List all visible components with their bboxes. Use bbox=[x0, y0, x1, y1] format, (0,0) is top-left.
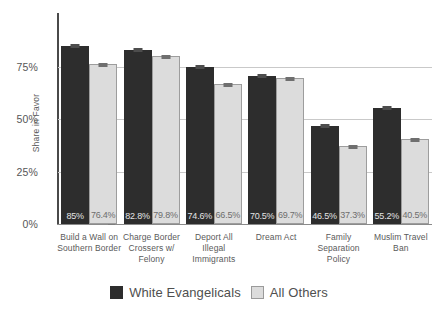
y-tick-label: 0% bbox=[22, 218, 38, 230]
bar-group: 55.2%40.5% bbox=[373, 14, 429, 224]
x-label-line: Policy bbox=[327, 254, 350, 264]
light-square-swatch bbox=[251, 286, 264, 299]
bar-value-label: 46.5% bbox=[312, 211, 337, 221]
bar-value-label: 85% bbox=[66, 211, 83, 221]
legend-item[interactable]: All Others bbox=[251, 285, 328, 300]
bar-group: 85%76.4% bbox=[61, 14, 117, 224]
legend-label: White Evangelicals bbox=[129, 285, 241, 300]
bar[interactable]: 55.2% bbox=[373, 108, 401, 224]
bar-value-label: 66.5% bbox=[216, 210, 241, 220]
bar-group: 82.8%79.8% bbox=[124, 14, 180, 224]
error-bar-cap bbox=[133, 48, 142, 52]
bar[interactable]: 85% bbox=[61, 46, 89, 225]
x-label-line: Dream Act bbox=[256, 232, 297, 242]
bar-chart: Share in Favor 0%25%50%75% 85%76.4%82.8%… bbox=[0, 0, 438, 310]
bar[interactable]: 46.5% bbox=[311, 126, 339, 224]
bar-value-label: 37.3% bbox=[340, 210, 365, 220]
bar[interactable]: 82.8% bbox=[124, 50, 152, 224]
error-bar-cap bbox=[99, 63, 108, 67]
bar[interactable]: 40.5% bbox=[401, 139, 429, 224]
error-bar-cap bbox=[286, 77, 295, 81]
bar[interactable]: 76.4% bbox=[89, 64, 117, 224]
error-bar-cap bbox=[71, 44, 80, 48]
error-bar-cap bbox=[195, 65, 204, 69]
bar-value-label: 40.5% bbox=[403, 210, 428, 220]
bar[interactable]: 70.5% bbox=[248, 76, 276, 224]
bar[interactable]: 69.7% bbox=[276, 78, 304, 224]
bar-value-label: 55.2% bbox=[375, 211, 400, 221]
y-tick-mark bbox=[108, 224, 115, 225]
bar-groups: 85%76.4%82.8%79.8%74.6%66.5%70.5%69.7%46… bbox=[58, 14, 432, 224]
x-label-line: Immigrants bbox=[192, 254, 235, 264]
plot-area: Share in Favor 0%25%50%75% 85%76.4%82.8%… bbox=[58, 14, 432, 224]
x-label-line: Deport All bbox=[195, 232, 233, 242]
x-label-line: Separation bbox=[317, 243, 359, 253]
x-label-line: Muslim Travel bbox=[374, 232, 428, 242]
x-label-line: Ban bbox=[393, 243, 408, 253]
y-tick-label: 75% bbox=[16, 61, 38, 73]
error-bar-cap bbox=[348, 145, 357, 149]
bar-group: 70.5%69.7% bbox=[248, 14, 304, 224]
error-bar-cap bbox=[382, 106, 391, 110]
dark-square-swatch bbox=[110, 286, 123, 299]
bar-group: 46.5%37.3% bbox=[311, 14, 367, 224]
x-label-line: Felony bbox=[138, 254, 164, 264]
legend-item[interactable]: White Evangelicals bbox=[110, 285, 241, 300]
bar[interactable]: 37.3% bbox=[339, 146, 367, 224]
x-axis-labels: Build a Wall onSouthern BorderCharge Bor… bbox=[58, 232, 432, 278]
bar-value-label: 82.8% bbox=[125, 211, 150, 221]
bar-value-label: 76.4% bbox=[91, 210, 116, 220]
x-axis-category-label: Muslim TravelBan bbox=[359, 232, 438, 254]
error-bar-cap bbox=[410, 138, 419, 142]
error-bar-cap bbox=[320, 124, 329, 128]
bar[interactable]: 74.6% bbox=[186, 67, 214, 224]
error-bar-cap bbox=[161, 55, 170, 59]
y-tick-label: 25% bbox=[16, 166, 38, 178]
bar-group: 74.6%66.5% bbox=[186, 14, 242, 224]
y-tick-label: 50% bbox=[16, 113, 38, 125]
bar[interactable]: 66.5% bbox=[214, 84, 242, 224]
legend-label: All Others bbox=[270, 285, 328, 300]
x-label-line: Crossers w/ bbox=[129, 243, 175, 253]
error-bar-cap bbox=[258, 74, 267, 78]
bar-value-label: 69.7% bbox=[278, 210, 303, 220]
bar-value-label: 70.5% bbox=[250, 211, 275, 221]
x-label-line: Illegal bbox=[202, 243, 225, 253]
bar-value-label: 74.6% bbox=[188, 211, 213, 221]
x-label-line: Family bbox=[326, 232, 352, 242]
chart-legend: White EvangelicalsAll Others bbox=[0, 285, 438, 300]
bar-value-label: 79.8% bbox=[153, 210, 178, 220]
bar[interactable]: 79.8% bbox=[152, 56, 180, 224]
error-bar-cap bbox=[223, 83, 232, 87]
